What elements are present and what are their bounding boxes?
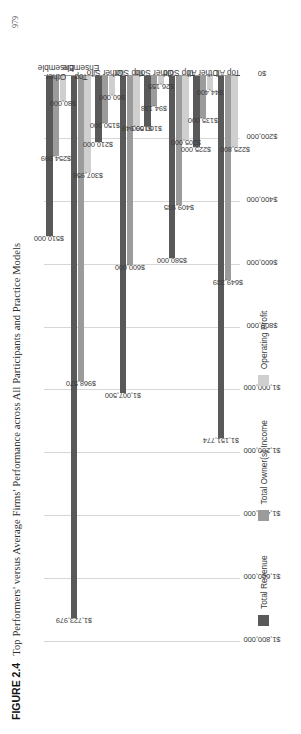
table-row [191, 76, 216, 642]
page-folio: 979 [11, 16, 20, 28]
bar-value-label: $1,723,979 [56, 616, 92, 625]
chart-plot-area [44, 76, 240, 642]
bar-0 [169, 76, 175, 258]
chart-bar-groups [44, 76, 240, 642]
bar-value-label: $44,400 [197, 87, 223, 96]
bar-value-label: $600,000 [115, 262, 145, 271]
bar-1 [53, 76, 59, 156]
bar-value-label: $580,000 [157, 256, 187, 265]
figure-caption: FIGURE 2.4Top Performers' versus Average… [10, 14, 22, 720]
axis-tick-label: $600,000 [247, 257, 278, 266]
bar-1 [151, 76, 157, 106]
bar-value-label: $409,935 [164, 202, 194, 211]
bar-value-label: $159,949 [122, 124, 152, 133]
legend-swatch-icon [258, 615, 269, 626]
axis-tick-label: $1,800,000 [243, 635, 280, 644]
legend-label: Total Revenue [259, 555, 269, 609]
bar-0 [95, 76, 101, 142]
chart-legend: Total RevenueTotal Owner(s) IncomeOperat… [258, 311, 269, 626]
bar-value-label: $94,138 [141, 103, 167, 112]
bar-value-label: $135,000 [188, 116, 218, 125]
bar-2 [133, 76, 139, 126]
bar-value-label: $307,958 [73, 170, 103, 179]
legend-label: Operating Profit [259, 311, 269, 370]
bar-value-label: $26,155 [148, 82, 174, 91]
axis-tick-label: $0 [258, 69, 266, 78]
legend-label: Total Owner(s) Income [259, 420, 269, 504]
bar-value-label: $510,000 [34, 234, 64, 243]
bar-value-label: $80,000 [50, 99, 76, 108]
figure-caption-text: Top Performers' versus Average Firms' Pe… [11, 243, 22, 656]
bar-value-label: $60,000 [99, 92, 125, 101]
bar-value-label: $649,339 [213, 278, 243, 287]
bar-value-label: $254,999 [41, 154, 71, 163]
bar-value-label: $205,000 [171, 138, 201, 147]
legend-swatch-icon [258, 510, 269, 521]
bar-1 [78, 76, 84, 381]
bar-value-label: $968,570 [66, 378, 96, 387]
legend-swatch-icon [258, 375, 269, 386]
axis-tick-label: $200,000 [247, 131, 278, 140]
bar-0 [218, 76, 224, 438]
bar-2 [182, 76, 188, 140]
bar-value-label: $1,007,500 [105, 390, 141, 399]
bar-value-label: $150,000 [90, 121, 120, 130]
figure-page: FIGURE 2.4Top Performers' versus Average… [0, 0, 301, 734]
bar-2 [231, 76, 237, 147]
table-row [142, 76, 167, 642]
bar-value-label: $1,151,774 [203, 436, 239, 445]
bar-value-label: $225,800 [220, 145, 250, 154]
table-row [93, 76, 118, 642]
bar-1 [225, 76, 231, 280]
bar-value-label: $210,000 [83, 140, 113, 149]
figure-number: FIGURE 2.4 [10, 663, 22, 720]
category-label: Other Ensemble [25, 63, 87, 81]
legend-item-0: Total Revenue [258, 555, 269, 626]
legend-item-1: Total Owner(s) Income [258, 420, 269, 521]
axis-tick-label: $400,000 [247, 194, 278, 203]
bar-1 [200, 76, 206, 118]
legend-item-2: Operating Profit [258, 311, 269, 387]
bar-0 [71, 76, 77, 618]
bar-1 [127, 76, 133, 265]
